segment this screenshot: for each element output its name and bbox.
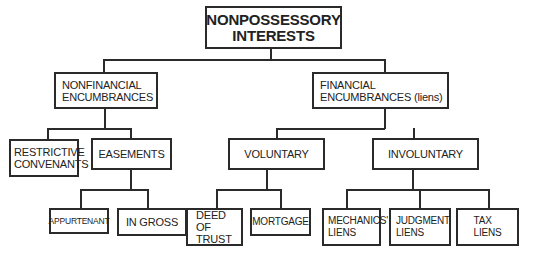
node-tax-liens: TAX LIENS xyxy=(456,208,519,246)
node-label: MECHANICS' LIENS xyxy=(328,215,388,239)
connector-easements-down xyxy=(130,169,132,190)
connector-to-mechanics xyxy=(346,189,348,208)
node-mortgage: MORTGAGE xyxy=(250,208,311,236)
connector-easements-horizontal xyxy=(80,189,148,191)
node-judgment-liens: JUDGMENT LIENS xyxy=(389,208,451,246)
connector-nonfinancial-down xyxy=(104,108,106,129)
node-financial-encumbrances: FINANCIAL ENCUMBRANCES (liens) xyxy=(312,72,449,109)
node-label: VOLUNTARY xyxy=(244,148,308,160)
node-nonfinancial-encumbrances: NONFINANCIAL ENCUMBRANCES xyxy=(54,72,158,109)
connector-financial-down xyxy=(384,108,386,129)
node-mechanics-liens: MECHANICS' LIENS xyxy=(322,208,381,246)
connector-to-restrictive xyxy=(47,128,49,139)
node-in-gross: IN GROSS xyxy=(117,208,187,236)
connector-to-judgment xyxy=(419,189,421,208)
node-appurtenant: APPURTENANT xyxy=(49,208,109,234)
node-label: TAX LIENS xyxy=(474,215,502,239)
connector-to-mortgage xyxy=(280,189,282,208)
node-label: RESTRICTIVE CONVENANTS xyxy=(14,146,88,170)
connector-nonfinancial-horizontal xyxy=(47,128,131,130)
node-label: DEED OF TRUST xyxy=(196,209,241,245)
connector-to-financial xyxy=(384,59,386,72)
node-restrictive-covenants: RESTRICTIVE CONVENANTS xyxy=(9,139,79,177)
connector-to-tax xyxy=(488,189,490,208)
connector-to-nonfinancial xyxy=(103,59,105,72)
node-nonpossessory-interests: NONPOSSESSORY INTERESTS xyxy=(205,6,342,49)
connector-voluntary-horizontal xyxy=(216,189,281,191)
connector-to-deed-of-trust xyxy=(216,189,218,208)
node-involuntary: INVOLUNTARY xyxy=(372,138,479,170)
node-label: MORTGAGE xyxy=(252,216,309,228)
node-label: NONFINANCIAL ENCUMBRANCES xyxy=(62,79,153,103)
connector-to-appurtenant xyxy=(80,189,82,208)
node-voluntary: VOLUNTARY xyxy=(228,138,325,170)
connector-to-voluntary xyxy=(276,128,278,138)
connector-involuntary-horizontal xyxy=(346,189,489,191)
connector-to-easements xyxy=(130,128,132,138)
node-label: FINANCIAL ENCUMBRANCES (liens) xyxy=(320,79,443,103)
node-label: JUDGMENT LIENS xyxy=(396,215,450,239)
node-label: EASEMENTS xyxy=(98,148,164,160)
node-label: NONPOSSESSORY INTERESTS xyxy=(206,12,340,44)
node-easements: EASEMENTS xyxy=(91,138,172,170)
node-label: IN GROSS xyxy=(126,216,178,228)
connector-to-involuntary xyxy=(413,128,415,138)
node-label: INVOLUNTARY xyxy=(388,148,463,160)
node-label: APPURTENANT xyxy=(49,215,110,227)
connector-involuntary-down xyxy=(412,169,414,190)
connector-financial-horizontal xyxy=(276,128,385,130)
connector-level1-horizontal xyxy=(103,59,385,61)
node-deed-of-trust: DEED OF TRUST xyxy=(186,208,243,246)
connector-to-in-gross xyxy=(147,189,149,208)
connector-voluntary-down xyxy=(266,169,268,190)
